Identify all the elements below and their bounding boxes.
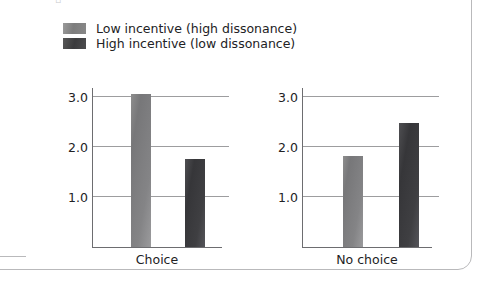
x-axis-label-choice: Choice — [92, 252, 222, 267]
gridline-3: 3.0 — [303, 96, 439, 97]
x-axis-label-no-choice: No choice — [302, 252, 432, 267]
bar-choice-low-incentive — [131, 94, 151, 247]
plot-area-no-choice: 3.0 2.0 1.0 — [302, 88, 432, 248]
gridline-1: 1.0 — [93, 196, 229, 197]
y-tick-label-2: 2.0 — [68, 140, 88, 155]
legend-swatch-icon-high-incentive — [63, 38, 86, 49]
legend-swatch-icon-low-incentive — [63, 23, 86, 34]
y-tick-label-3: 3.0 — [68, 90, 88, 105]
figure-frame-tick — [0, 256, 26, 257]
chart-panel-no-choice: 3.0 2.0 1.0 No choice — [272, 80, 432, 251]
bar-no-choice-low-incentive — [343, 156, 363, 247]
cropped-glyph: ▫ — [55, 0, 62, 5]
y-tick-label-2: 2.0 — [278, 140, 298, 155]
bar-choice-high-incentive — [185, 159, 205, 247]
plot-area-choice: 3.0 2.0 1.0 — [92, 88, 222, 248]
legend-label-low-incentive: Low incentive (high dissonance) — [96, 22, 297, 36]
chart-panel-choice: 3.0 2.0 1.0 Choice — [62, 80, 222, 251]
gridline-3: 3.0 — [93, 96, 229, 97]
y-tick-label-3: 3.0 — [278, 90, 298, 105]
bar-no-choice-high-incentive — [399, 123, 419, 247]
legend-item-low-incentive: Low incentive (high dissonance) — [63, 21, 297, 36]
legend-label-high-incentive: High incentive (low dissonance) — [96, 37, 295, 51]
chart-legend: Low incentive (high dissonance) High inc… — [63, 21, 297, 51]
y-tick-label-1: 1.0 — [278, 190, 298, 205]
legend-item-high-incentive: High incentive (low dissonance) — [63, 36, 297, 51]
gridline-2: 2.0 — [93, 146, 229, 147]
y-tick-label-1: 1.0 — [68, 190, 88, 205]
